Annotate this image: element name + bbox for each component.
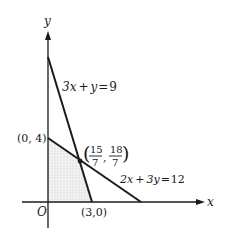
x-axis-label: x xyxy=(207,195,214,209)
point-label-0-4: (0, 4) xyxy=(17,132,47,145)
y-axis-label: y xyxy=(43,14,51,28)
right-paren: ) xyxy=(122,142,129,164)
x-denominator: 7 xyxy=(92,157,98,168)
y-axis-arrow-icon xyxy=(45,31,51,40)
comma: , xyxy=(103,151,107,164)
diagram-canvas: y x O (0, 4) (3,0) 3x+y=9 2x+3y=12 ( 15 … xyxy=(0,0,227,234)
intersection-label: ( 15 7 , 18 7 ) xyxy=(83,142,129,168)
y-denominator: 7 xyxy=(112,157,118,168)
x-axis-arrow-icon xyxy=(196,199,205,205)
equation-label-line1: 3x+y=9 xyxy=(62,80,117,94)
origin-label: O xyxy=(37,205,47,219)
equation-label-line2: 2x+3y=12 xyxy=(119,173,185,186)
x-numerator: 15 xyxy=(90,144,103,155)
intersection-point xyxy=(78,159,83,164)
point-label-3-0: (3,0) xyxy=(81,206,107,219)
y-numerator: 18 xyxy=(110,144,123,155)
